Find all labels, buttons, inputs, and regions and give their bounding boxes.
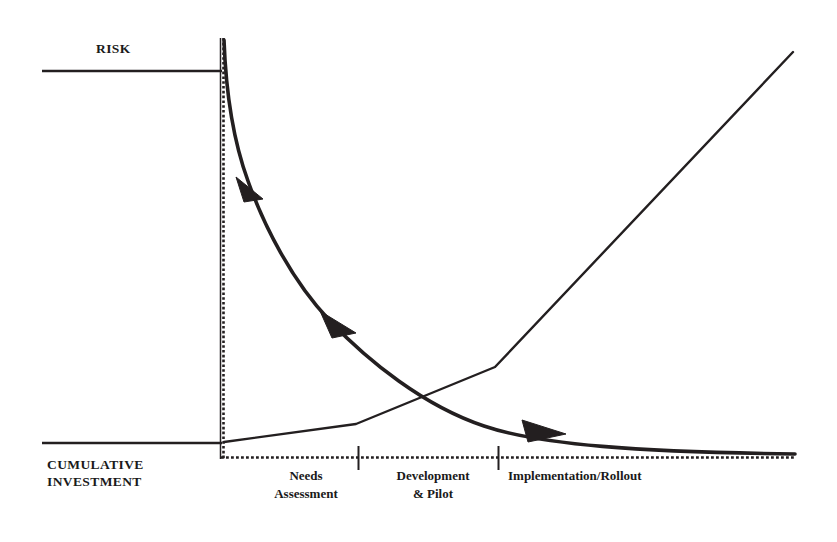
risk-axis-title: RISK — [96, 40, 131, 57]
chart-canvas: RISK CUMULATIVE INVESTMENT Needs Assessm… — [0, 0, 837, 542]
risk-arrowhead-2 — [320, 311, 356, 338]
cumulative-investment-curve — [224, 52, 793, 442]
risk-arrowhead-3 — [522, 420, 566, 442]
phase-label-needs-assessment: Needs Assessment — [238, 467, 374, 503]
phase-label-development-pilot: Development & Pilot — [367, 467, 499, 503]
risk-curve — [224, 40, 795, 454]
cumulative-investment-axis-title: CUMULATIVE INVESTMENT — [47, 456, 144, 490]
phase-label-implementation-rollout: Implementation/Rollout — [508, 467, 728, 485]
